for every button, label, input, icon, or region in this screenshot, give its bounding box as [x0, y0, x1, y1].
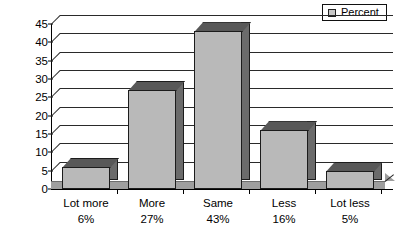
category-value: 27%	[116, 212, 188, 228]
x-axis-category-label: Same43%	[182, 196, 254, 227]
plot-area: 051015202530354045 Lot more6%More27%Same…	[0, 0, 406, 232]
category-name: Less	[248, 196, 320, 212]
grid-riser	[51, 33, 61, 43]
category-value: 16%	[248, 212, 320, 228]
bar-side-face	[241, 22, 250, 180]
y-tick-label-text: 40	[24, 36, 48, 48]
grid-riser	[51, 143, 61, 153]
y-tick-label-text: 5	[24, 165, 48, 177]
x-axis-category-label: Lot less5%	[314, 196, 386, 227]
x-tick-mark	[183, 189, 184, 194]
bar	[194, 31, 242, 189]
bar-front-face	[260, 130, 308, 189]
grid-riser	[51, 15, 61, 25]
y-tick-label-text: 45	[24, 18, 48, 30]
grid-line	[60, 15, 393, 16]
grid-riser	[51, 70, 61, 80]
bar-front-face	[326, 171, 374, 189]
bar-side-face	[175, 81, 184, 180]
bar	[128, 90, 176, 189]
grid-riser	[51, 52, 61, 62]
y-tick-label-text: 30	[24, 73, 48, 85]
x-axis-line	[51, 189, 393, 190]
x-tick-mark	[381, 189, 382, 194]
y-tick-label-text: 0	[24, 183, 48, 195]
bar-front-face	[62, 167, 110, 189]
y-tick-label-text: 25	[24, 91, 48, 103]
grid-riser	[51, 88, 61, 98]
grid-riser	[51, 162, 61, 172]
y-axis-line	[51, 24, 52, 189]
x-tick-mark	[117, 189, 118, 194]
bar-chart: Percent 051015202530354045 Lot more6%Mor…	[0, 0, 406, 232]
x-axis-category-label: Less16%	[248, 196, 320, 227]
category-name: More	[116, 196, 188, 212]
y-tick-label-text: 35	[24, 55, 48, 67]
y-tick-label-text: 20	[24, 110, 48, 122]
category-name: Lot less	[314, 196, 386, 212]
category-value: 43%	[182, 212, 254, 228]
bar	[326, 171, 374, 189]
category-name: Same	[182, 196, 254, 212]
grid-riser	[51, 107, 61, 117]
x-tick-mark	[249, 189, 250, 194]
x-axis-category-label: Lot more6%	[50, 196, 122, 227]
category-value: 6%	[50, 212, 122, 228]
category-value: 5%	[314, 212, 386, 228]
category-name: Lot more	[50, 196, 122, 212]
bar-front-face	[194, 31, 242, 189]
y-tick-label-text: 10	[24, 146, 48, 158]
grid-riser	[51, 125, 61, 135]
bar-front-face	[128, 90, 176, 189]
bar	[62, 167, 110, 189]
bar	[260, 130, 308, 189]
y-tick-label-text: 15	[24, 128, 48, 140]
x-axis-category-label: More27%	[116, 196, 188, 227]
x-tick-mark	[315, 189, 316, 194]
